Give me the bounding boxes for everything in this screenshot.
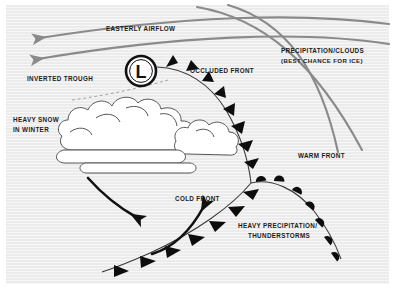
cold-front-pip [243, 189, 259, 200]
occluded-front-pip [166, 55, 178, 67]
cold-front-pip [209, 221, 226, 232]
warm-front-line [251, 182, 341, 259]
warm-front-bump [292, 187, 302, 195]
heavy-snow-label-line2: IN WINTER [13, 126, 49, 133]
inverted-trough-label: INVERTED TROUGH [27, 75, 93, 82]
cold-front-pip [140, 256, 156, 268]
heavy-precipitation-label-line2: THUNDERSTORMS [248, 232, 310, 239]
easterly-airflow-arrow-upper [40, 17, 389, 38]
precipitation-clouds-label-line2: (BEST CHANCE FOR ICE) [281, 57, 363, 64]
warm-front-bump [305, 202, 315, 211]
cold-front-label: COLD FRONT [175, 195, 220, 202]
warm-front-bump [274, 176, 284, 182]
warm-front-bump [256, 176, 266, 182]
cloud-base-band-lower [80, 163, 196, 173]
cold-front-pip [228, 206, 245, 217]
heavy-snow-label-line1: HEAVY SNOW [13, 116, 59, 123]
cold-sector-flow-arrow [88, 178, 136, 217]
precipitation-clouds-label-line1: PRECIPITATION/CLOUDS [281, 47, 364, 54]
inverted-trough-dashed-line [72, 80, 168, 100]
warm-sector-inflow-arrow [152, 206, 204, 254]
cold-front-pip [114, 265, 129, 277]
occluded-front-pip [238, 140, 253, 152]
diagram-canvas: EASTERLY AIRFLOW PRECIPITATION/CLOUDS (B… [0, 0, 395, 289]
heavy-precipitation-label-line1: HEAVY PRECIPITATION/ [238, 222, 317, 229]
low-pressure-symbol: L [126, 56, 156, 86]
easterly-airflow-label: EASTERLY AIRFLOW [106, 25, 175, 32]
warm-front [251, 176, 341, 262]
cloud-base-band-upper [57, 150, 186, 163]
warm-front-label: WARM FRONT [298, 152, 345, 159]
precipitation-arc-inner [228, 5, 338, 152]
warm-front-bump [331, 252, 339, 261]
low-pressure-letter: L [136, 62, 147, 82]
occluded-front-pip [223, 103, 235, 116]
cloud-mass [57, 97, 239, 173]
weather-diagram: EASTERLY AIRFLOW PRECIPITATION/CLOUDS (B… [0, 0, 395, 289]
occluded-front-label: OCCLUDED FRONT [190, 67, 254, 74]
cold-front-pip [188, 234, 205, 246]
